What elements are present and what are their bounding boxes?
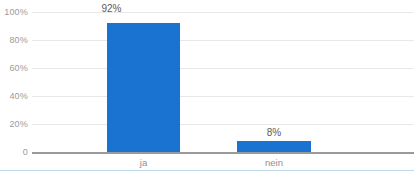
category-label-nein: nein	[237, 157, 311, 168]
y-tick-label-100: 100%	[0, 7, 28, 17]
y-tick-label-40: 40%	[0, 91, 28, 101]
value-label-ja: 92%	[75, 3, 148, 14]
axis-baseline	[32, 152, 414, 154]
chart-title	[0, 0, 414, 2]
bar-nein[interactable]	[237, 141, 311, 152]
value-label-nein: 8%	[237, 127, 311, 138]
bar-chart: 100% 80% 60% 40% 20% 0 92% 8% ja nein	[0, 0, 414, 175]
category-label-ja: ja	[107, 157, 180, 168]
y-tick-label-20: 20%	[0, 119, 28, 129]
bar-ja[interactable]	[107, 23, 180, 152]
y-tick-label-60: 60%	[0, 63, 28, 73]
bottom-divider	[0, 170, 414, 171]
bars-layer	[32, 12, 414, 152]
y-tick-label-80: 80%	[0, 35, 28, 45]
y-tick-label-0: 0	[0, 147, 28, 157]
